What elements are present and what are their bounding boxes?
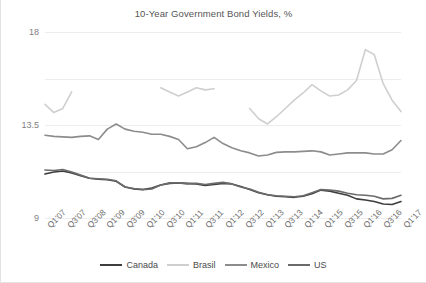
legend-label: US — [314, 260, 327, 270]
legend-item-canada[interactable]: Canada — [100, 260, 158, 270]
chart-title: 10-Year Government Bond Yields, % — [1, 8, 426, 19]
series-lines — [45, 32, 401, 218]
series-line-mexico — [45, 124, 401, 156]
x-axis-tick-label: Q1'17 — [401, 207, 424, 230]
series-line-brasil — [250, 50, 401, 124]
x-axis-labels: Q1'07Q3'07Q3'08Q1'09Q3'09Q1'10Q3'10Q1'11… — [45, 220, 401, 264]
legend-swatch-icon — [167, 264, 189, 266]
plot-area: 04.5913.518 — [45, 32, 401, 218]
legend-swatch-icon — [225, 264, 247, 266]
legend-label: Brasil — [193, 260, 216, 270]
series-line-canada — [45, 171, 401, 205]
y-axis-tick-label: 9 — [34, 213, 39, 223]
series-line-brasil — [161, 88, 214, 96]
series-line-brasil — [45, 92, 72, 113]
y-axis-tick-label: 18 — [29, 27, 39, 37]
legend-item-brasil[interactable]: Brasil — [167, 260, 216, 270]
legend-label: Canada — [126, 260, 158, 270]
y-axis-tick-label: 13.5 — [21, 120, 39, 130]
legend-label: Mexico — [251, 260, 280, 270]
legend-swatch-icon — [100, 264, 122, 266]
chart-legend: CanadaBrasilMexicoUS — [1, 260, 426, 270]
legend-item-us[interactable]: US — [288, 260, 327, 270]
legend-item-mexico[interactable]: Mexico — [225, 260, 280, 270]
legend-swatch-icon — [288, 264, 310, 266]
bond-yields-chart: 10-Year Government Bond Yields, % 04.591… — [0, 0, 426, 283]
